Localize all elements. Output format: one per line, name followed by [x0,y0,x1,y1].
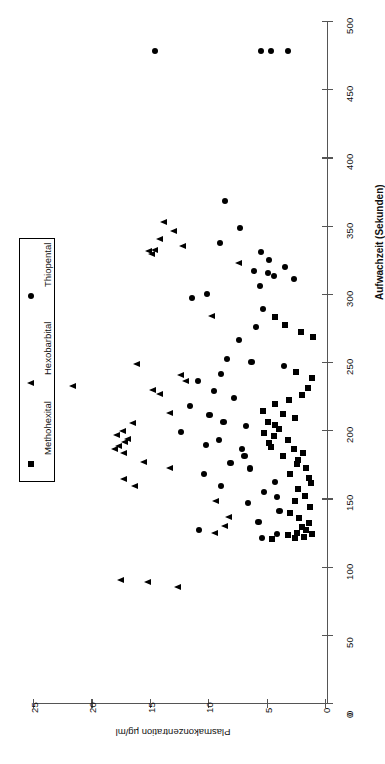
data-point-triangle [120,476,127,482]
data-point-circle [196,527,202,533]
data-point-circle [201,471,207,477]
aufwachzeit-tick-label: 500 [344,18,355,34]
data-point-square [287,510,293,516]
data-point-triangle [235,260,242,266]
data-point-square [296,515,302,521]
data-point-circle [259,535,265,541]
aufwachzeit-tick [322,21,333,22]
aufwachzeit-tick-label: 350 [344,222,355,238]
data-point-triangle [111,446,118,452]
data-point-triangle [225,514,232,520]
legend-marker-triangle [27,380,34,386]
data-point-circle [255,519,261,525]
data-point-square [292,415,298,421]
aufwachzeit-tick [322,567,333,568]
data-point-circle [231,395,237,401]
data-point-square [309,375,315,381]
data-point-circle [285,48,291,54]
data-point-circle [260,306,266,312]
aufwachzeit-tick [322,226,333,227]
aufwachzeit-tick-label: 250 [344,359,355,375]
data-point-triangle [170,228,177,234]
aufwachzeit-tick-label: 300 [344,290,355,306]
data-point-circle [241,453,247,459]
data-point-square [294,461,300,467]
data-point-circle [217,240,223,246]
data-point-circle [239,446,245,452]
data-point-circle [272,479,278,485]
y-axis-title: Plasmakonzentration µg/ml [108,727,238,738]
plasmakonzentration-tick-label: 20 [87,702,98,713]
data-point-square [299,392,305,398]
aufwachzeit-tick-label: 200 [344,427,355,443]
legend-label: Thiopental [42,243,53,287]
data-point-square [280,411,286,417]
data-point-circle [271,273,277,279]
data-point-square [295,486,301,492]
data-point-square [301,534,307,540]
data-point-circle [258,249,264,255]
data-point-square [272,401,278,407]
data-point-circle [216,437,222,443]
data-point-square [285,437,291,443]
data-point-triangle [133,361,140,367]
aufwachzeit-tick [322,703,333,704]
data-point-circle [282,264,288,270]
data-point-circle [206,412,212,418]
data-point-square [261,430,267,436]
data-point-square [310,334,316,340]
plasmakonzentration-tick-label: 25 [29,702,40,713]
aufwachzeit-tick-label: 450 [344,86,355,102]
data-point-circle [266,257,272,263]
data-point-circle [274,531,280,537]
plasmakonzentration-tick-label: 5 [263,708,274,713]
data-point-circle [261,489,267,495]
data-point-triangle [179,243,186,249]
data-point-circle [248,359,254,365]
data-point-square [293,369,299,375]
data-point-circle [281,363,287,369]
data-point-square [280,453,286,459]
data-point-circle [187,403,193,409]
data-point-triangle [166,410,173,416]
data-point-circle [178,429,184,435]
data-point-triangle [221,523,228,529]
data-point-circle [189,295,195,301]
data-point-triangle [166,465,173,471]
data-point-square [292,498,298,504]
data-point-square [286,397,292,403]
data-point-circle [245,500,251,506]
data-point-triangle [120,450,127,456]
aufwachzeit-tick [322,430,333,431]
data-point-circle [152,48,158,54]
data-point-triangle [113,432,120,438]
data-point-circle [257,283,263,289]
plasmakonzentration-tick-label: 15 [146,702,157,713]
origin-corner-label: 0 [344,713,355,718]
data-point-triangle [212,498,219,504]
data-point-circle [218,371,224,377]
data-point-circle [247,465,253,471]
legend-label: Hexobarbital [42,322,53,375]
data-point-triangle [144,579,151,585]
data-point-square [268,444,274,450]
aufwachzeit-tick-label: 150 [344,495,355,511]
data-point-square [307,504,313,510]
data-point-triangle [211,530,218,536]
data-point-circle [253,324,259,330]
data-point-square [305,385,311,391]
data-point-circle [236,337,242,343]
data-point-circle [276,508,282,514]
data-point-circle [211,388,217,394]
data-point-triangle [140,459,147,465]
data-point-circle [251,268,257,274]
plasmakonzentration-axis-line [33,703,327,704]
data-point-triangle [148,251,155,257]
data-point-square [298,329,304,335]
data-point-triangle [131,483,138,489]
data-point-square [292,535,298,541]
aufwachzeit-tick [322,635,333,636]
data-point-square [276,426,282,432]
data-point-triangle [69,383,76,389]
aufwachzeit-tick-label: 400 [344,154,355,170]
